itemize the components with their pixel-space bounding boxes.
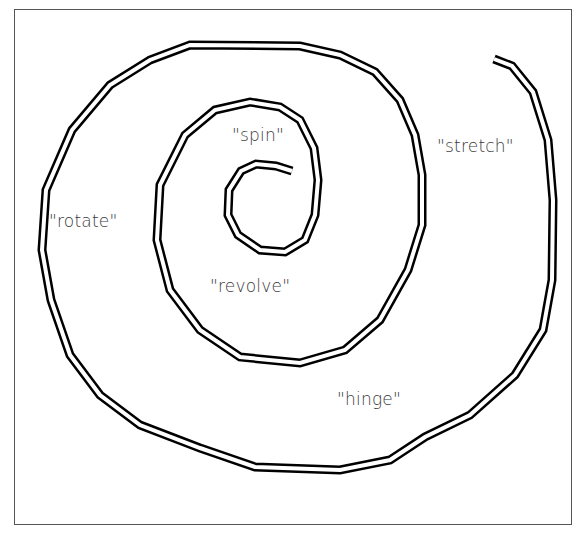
label-spin: "spin" (232, 125, 284, 145)
label-revolve: "revolve" (210, 276, 290, 296)
label-rotate: "rotate" (49, 211, 117, 231)
label-stretch: "stretch" (437, 136, 514, 156)
spiral-curve (42, 45, 553, 470)
spiral-shape (0, 0, 585, 539)
label-hinge: "hinge" (337, 389, 401, 409)
